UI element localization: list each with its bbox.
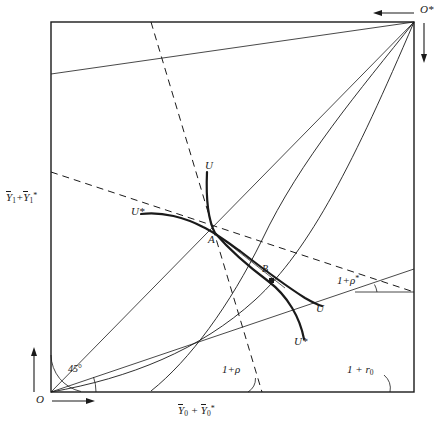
figure-container: Y1+Y1* Y0 + Y0* O O* A B U U* U U* 45° 1… bbox=[0, 0, 442, 433]
main-diagonal-line bbox=[51, 22, 414, 392]
angle-arc-rho-star bbox=[375, 285, 378, 293]
overbar-icon bbox=[178, 404, 183, 405]
overbar-icon bbox=[23, 191, 28, 192]
curve-label-ustar-lower: U* bbox=[294, 336, 307, 347]
budget-line-rho-star-dashed bbox=[51, 172, 414, 292]
x-axis-label: Y0 + Y0* bbox=[178, 405, 215, 418]
curve-label-ustar-left: U* bbox=[131, 206, 144, 217]
one-plus-r-zero-base: 1 + r0 bbox=[347, 363, 373, 375]
angle-label-one-plus-rho: 1+ρ bbox=[222, 364, 240, 375]
x-axis-label-text: Y0 + Y0* bbox=[178, 405, 215, 418]
y-axis-label-text: Y1+Y1* bbox=[6, 192, 37, 205]
angle-forty-five-value: 45 bbox=[68, 363, 78, 374]
angle-arc-r-zero-origin bbox=[94, 377, 97, 392]
point-a-label: A bbox=[208, 234, 215, 245]
point-b-marker bbox=[269, 278, 274, 283]
point-b-label: B bbox=[262, 264, 268, 274]
curve-label-u-upper: U bbox=[205, 160, 213, 171]
angle-arc-rho bbox=[248, 378, 256, 392]
diagram-canvas bbox=[0, 0, 442, 433]
indifference-curve-foreign-Ustar bbox=[141, 213, 322, 306]
y-axis-label: Y1+Y1* bbox=[6, 192, 37, 205]
angle-label-forty-five: 45° bbox=[68, 364, 82, 374]
origin-label: O bbox=[36, 394, 44, 405]
curve-label-u-lower: U bbox=[316, 303, 324, 314]
angle-label-one-plus-rho-star: 1+ρ* bbox=[337, 275, 359, 286]
transformation-curve-foreign bbox=[151, 22, 414, 391]
angle-arc-r-zero bbox=[384, 375, 390, 392]
foreign-origin-label: O* bbox=[420, 4, 433, 15]
price-line-to-foreign-origin bbox=[51, 22, 414, 74]
degree-symbol-icon: ° bbox=[78, 363, 82, 374]
angle-label-one-plus-r-zero: 1 + r0 bbox=[347, 364, 373, 377]
one-plus-rho-star-base: 1+ρ* bbox=[337, 274, 359, 286]
chord-A-to-B bbox=[216, 234, 285, 288]
overbar-icon bbox=[6, 191, 11, 192]
overbar-icon bbox=[201, 404, 206, 405]
